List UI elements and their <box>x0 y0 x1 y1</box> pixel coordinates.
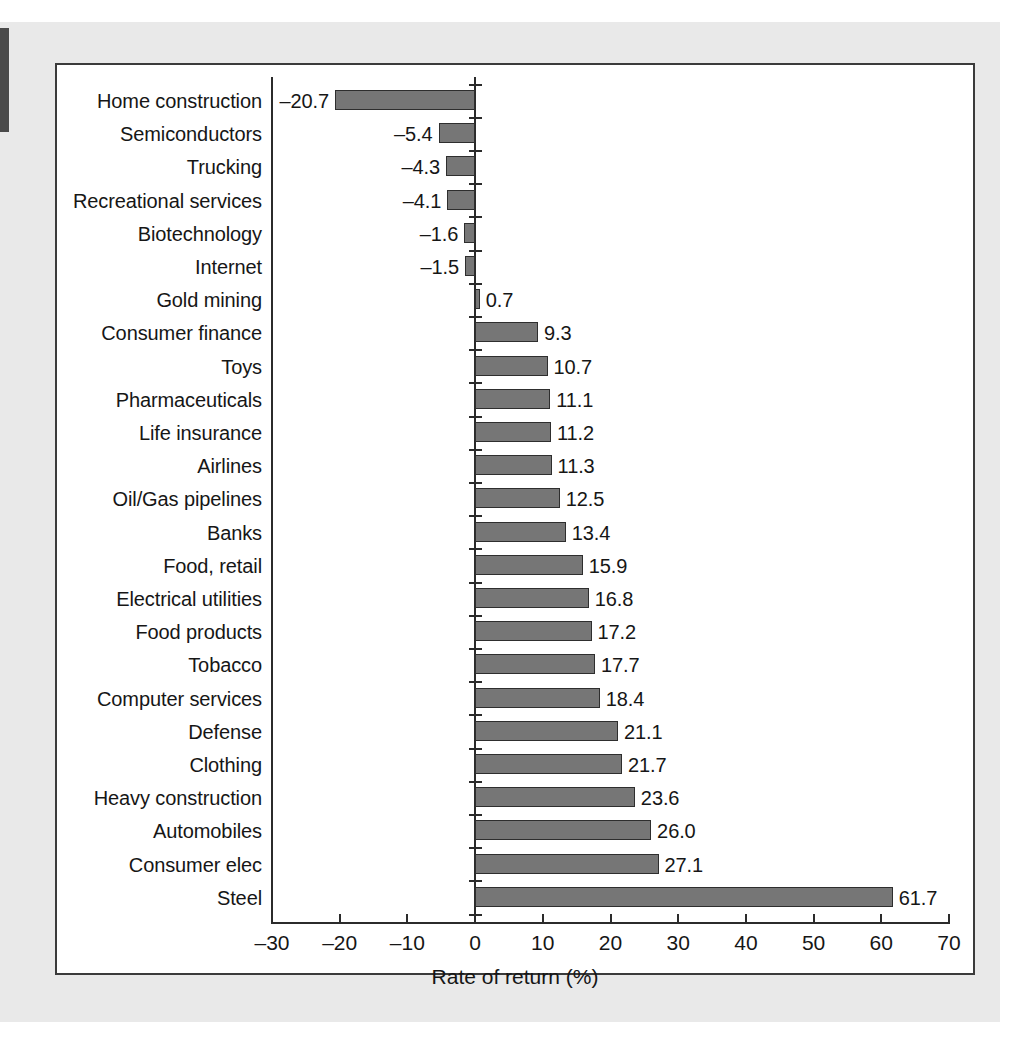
bar-value-label: 11.3 <box>558 456 595 476</box>
bar <box>475 389 550 409</box>
bar-value-label: 21.1 <box>624 722 663 742</box>
bar-value-label: 17.2 <box>598 622 637 642</box>
zero-line-tick <box>469 117 482 119</box>
category-label: Airlines <box>52 456 262 476</box>
x-axis-tick <box>948 914 950 923</box>
category-label: Home construction <box>52 91 262 111</box>
zero-line-tick <box>469 283 482 285</box>
zero-line-tick <box>469 714 482 716</box>
bar-value-label: 9.3 <box>544 323 572 343</box>
scanned-page: Home construction–20.7Semiconductors–5.4… <box>0 0 1024 1039</box>
bar-value-label: 0.7 <box>486 290 514 310</box>
x-axis-tick-label: 40 <box>711 932 781 953</box>
bar-value-label: –4.3 <box>401 157 440 177</box>
bar <box>335 90 475 110</box>
bar <box>475 422 551 442</box>
category-label: Electrical utilities <box>52 589 262 609</box>
zero-line-tick <box>469 748 482 750</box>
category-label: Heavy construction <box>52 788 262 808</box>
category-label: Banks <box>52 523 262 543</box>
zero-line-tick <box>469 250 482 252</box>
category-label: Consumer elec <box>52 855 262 875</box>
category-label: Tobacco <box>52 655 262 675</box>
bar <box>475 356 547 376</box>
category-label: Internet <box>52 257 262 277</box>
zero-line-tick <box>469 880 482 882</box>
zero-line-tick <box>469 582 482 584</box>
zero-line-tick <box>469 84 482 86</box>
bar <box>475 555 583 575</box>
zero-line-tick <box>469 382 482 384</box>
x-axis-tick <box>474 914 476 923</box>
bar <box>475 754 622 774</box>
bar <box>475 654 595 674</box>
bar <box>475 289 480 309</box>
bar-value-label: 11.2 <box>557 423 594 443</box>
x-axis-tick <box>339 914 341 923</box>
category-label: Consumer finance <box>52 323 262 343</box>
bar-chart: Home construction–20.7Semiconductors–5.4… <box>57 65 973 973</box>
zero-line-tick <box>469 615 482 617</box>
category-label: Computer services <box>52 689 262 709</box>
figure-panel: Home construction–20.7Semiconductors–5.4… <box>55 63 975 975</box>
x-axis-tick-label: 50 <box>779 932 849 953</box>
bar-value-label: 11.1 <box>556 390 593 410</box>
x-axis-tick <box>271 914 273 923</box>
bar <box>464 223 475 243</box>
bar <box>465 256 475 276</box>
zero-line-tick <box>469 781 482 783</box>
zero-line-tick <box>469 449 482 451</box>
bar <box>446 156 475 176</box>
x-axis-tick-label: –30 <box>237 932 307 953</box>
bar <box>475 721 618 741</box>
zero-line-tick <box>469 316 482 318</box>
category-label: Life insurance <box>52 423 262 443</box>
category-label: Pharmaceuticals <box>52 390 262 410</box>
bar-value-label: –20.7 <box>279 91 329 111</box>
zero-line-tick <box>469 150 482 152</box>
bar <box>447 190 475 210</box>
bar-value-label: –1.6 <box>420 224 459 244</box>
zero-line-tick <box>469 216 482 218</box>
x-axis-tick-label: 0 <box>440 932 510 953</box>
bar-value-label: 18.4 <box>606 689 645 709</box>
category-label: Clothing <box>52 755 262 775</box>
category-label: Gold mining <box>52 290 262 310</box>
bar-value-label: 12.5 <box>566 489 605 509</box>
category-label: Food products <box>52 622 262 642</box>
zero-line-tick <box>469 548 482 550</box>
zero-line-tick <box>469 847 482 849</box>
x-axis-tick-label: 30 <box>643 932 713 953</box>
category-label: Toys <box>52 357 262 377</box>
zero-line-tick <box>469 349 482 351</box>
zero-line-tick <box>469 681 482 683</box>
bar <box>475 322 538 342</box>
bar-value-label: 23.6 <box>641 788 680 808</box>
bar <box>475 887 893 907</box>
bar-value-label: 17.7 <box>601 655 640 675</box>
category-label: Defense <box>52 722 262 742</box>
bar-value-label: 15.9 <box>589 556 628 576</box>
zero-line-tick <box>469 416 482 418</box>
x-axis-tick-label: –10 <box>372 932 442 953</box>
bar-value-label: 10.7 <box>554 357 593 377</box>
x-axis-tick-label: 20 <box>576 932 646 953</box>
zero-line-tick <box>469 515 482 517</box>
bar-value-label: 16.8 <box>595 589 634 609</box>
x-axis-title: Rate of return (%) <box>57 966 973 988</box>
bar <box>475 688 600 708</box>
bar-value-label: 61.7 <box>899 888 938 908</box>
bar <box>475 820 651 840</box>
category-label: Biotechnology <box>52 224 262 244</box>
zero-line-tick <box>469 648 482 650</box>
x-axis-tick <box>813 914 815 923</box>
bar <box>475 588 589 608</box>
bar <box>475 621 591 641</box>
bar-value-label: –5.4 <box>394 124 433 144</box>
category-label: Automobiles <box>52 821 262 841</box>
bar-value-label: 26.0 <box>657 821 696 841</box>
category-label: Recreational services <box>52 191 262 211</box>
category-label: Trucking <box>52 157 262 177</box>
bar-value-label: –4.1 <box>403 191 442 211</box>
zero-line-tick <box>469 183 482 185</box>
